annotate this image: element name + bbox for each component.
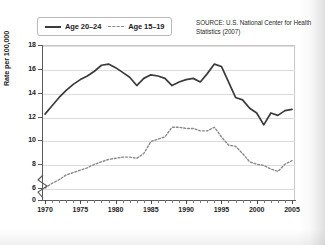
x-axis-minor-tick [130,200,131,203]
legend-label-age-20-24: Age 20–24 [65,22,101,31]
x-axis-major-tick [116,200,117,204]
x-axis-major-tick [80,200,81,204]
legend-swatch-dashed-line-icon [108,26,124,27]
x-axis-minor-tick [250,200,251,203]
x-axis-minor-tick [94,200,95,203]
x-axis-major-tick [292,200,293,204]
x-axis-major-tick [45,200,46,204]
x-axis-minor-tick [101,200,102,203]
series-line-2 [45,127,292,188]
x-axis-minor-tick [228,200,229,203]
y-axis-tick-label: 14 [22,89,36,96]
x-axis-minor-tick [278,200,279,203]
legend-swatch-solid-line-icon [45,26,61,28]
x-axis-minor-tick [193,200,194,203]
page-bottom-shadow [0,229,325,245]
x-axis-minor-tick [123,200,124,203]
x-axis-major-tick [221,200,222,204]
y-axis-tick [38,188,42,189]
x-axis-minor-tick [137,200,138,203]
y-axis-tick-label: 8 [22,160,36,167]
x-axis-tick-label: 1980 [103,206,129,213]
x-axis-major-tick [257,200,258,204]
source-note: SOURCE: U.S. National Center for Health … [196,18,318,36]
chart-legend: Age 20–24 Age 15–19 [37,17,172,36]
y-axis-title: Rate per 100,000 [2,31,11,86]
chart-page: Age 20–24 Age 15–19 SOURCE: U.S. Nationa… [0,0,325,245]
x-axis-minor-tick [52,200,53,203]
x-axis-tick-label: 1995 [208,206,234,213]
y-axis-tick [38,164,42,165]
x-axis-minor-tick [73,200,74,203]
y-axis-tick-label: 12 [22,113,36,120]
y-axis-tick [38,93,42,94]
chart-plot-frame [42,45,295,200]
x-axis-minor-tick [271,200,272,203]
x-axis-tick-label: 2000 [244,206,270,213]
x-axis-tick-label: 1970 [32,206,58,213]
x-axis-major-tick [151,200,152,204]
x-axis-minor-tick [59,200,60,203]
y-axis-tick [38,140,42,141]
x-axis-minor-tick [200,200,201,203]
legend-entry-age-20-24: Age 20–24 [45,22,101,31]
y-axis-tick-label: 0 [22,196,36,203]
series-lines [42,45,295,200]
y-axis-tick-label: 18 [22,41,36,48]
x-axis-minor-tick [236,200,237,203]
x-axis-tick-label: 1990 [173,206,199,213]
series-line-1 [45,64,292,125]
legend-entry-age-15-19: Age 15–19 [108,22,164,31]
x-axis-minor-tick [243,200,244,203]
x-axis-minor-tick [214,200,215,203]
x-axis-minor-tick [285,200,286,203]
y-axis-tick-label: 16 [22,65,36,72]
x-axis-minor-tick [144,200,145,203]
y-axis-tick [38,117,42,118]
x-axis-minor-tick [179,200,180,203]
y-axis-tick-label: 6 [22,184,36,191]
x-axis-tick-label: 2005 [279,206,305,213]
y-axis-tick-label: 10 [22,136,36,143]
x-axis-minor-tick [109,200,110,203]
y-axis-tick [38,45,42,46]
x-axis-minor-tick [158,200,159,203]
y-axis-tick [38,200,42,201]
x-axis-minor-tick [172,200,173,203]
x-axis-tick-label: 1975 [67,206,93,213]
x-axis-tick-label: 1985 [138,206,164,213]
x-axis-minor-tick [207,200,208,203]
x-axis-minor-tick [87,200,88,203]
x-axis-minor-tick [165,200,166,203]
legend-label-age-15-19: Age 15–19 [128,22,164,31]
y-axis-tick [38,69,42,70]
x-axis-minor-tick [66,200,67,203]
x-axis-minor-tick [264,200,265,203]
x-axis-major-tick [186,200,187,204]
